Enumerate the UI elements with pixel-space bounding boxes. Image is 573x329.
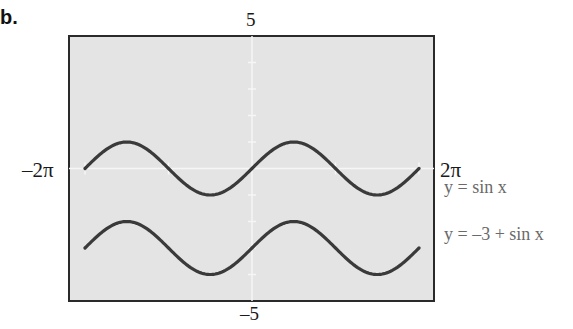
y-min-label: –5	[240, 303, 259, 325]
legend-sin-x: y = sin x	[444, 177, 507, 198]
legend-neg3-plus-sin-x: y = –3 + sin x	[444, 224, 544, 245]
y-max-label: 5	[246, 9, 256, 31]
x-min-label: –2π	[22, 158, 54, 183]
plot-area	[0, 0, 573, 329]
